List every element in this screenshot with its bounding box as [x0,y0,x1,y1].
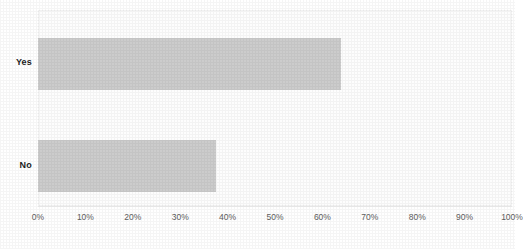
x-tick-label: 60% [314,212,331,222]
x-tick-label: 80% [409,212,426,222]
x-tick-label: 10% [77,212,94,222]
x-tick-label: 90% [456,212,473,222]
bar-yes[interactable] [38,38,341,90]
plot-area [38,10,512,206]
category-label-yes: Yes [0,57,32,67]
x-tick-label: 50% [266,212,283,222]
x-tick-label: 0% [32,212,44,222]
x-tick-label: 40% [219,212,236,222]
x-tick-label: 100% [501,212,523,222]
x-axis-tick-labels: 0%10%20%30%40%50%60%70%80%90%100% [0,212,515,228]
category-label-no: No [0,160,32,170]
x-tick-label: 70% [361,212,378,222]
x-axis-line [38,206,512,207]
x-tick-label: 30% [172,212,189,222]
bar-no[interactable] [38,140,216,192]
x-tick-label: 20% [124,212,141,222]
